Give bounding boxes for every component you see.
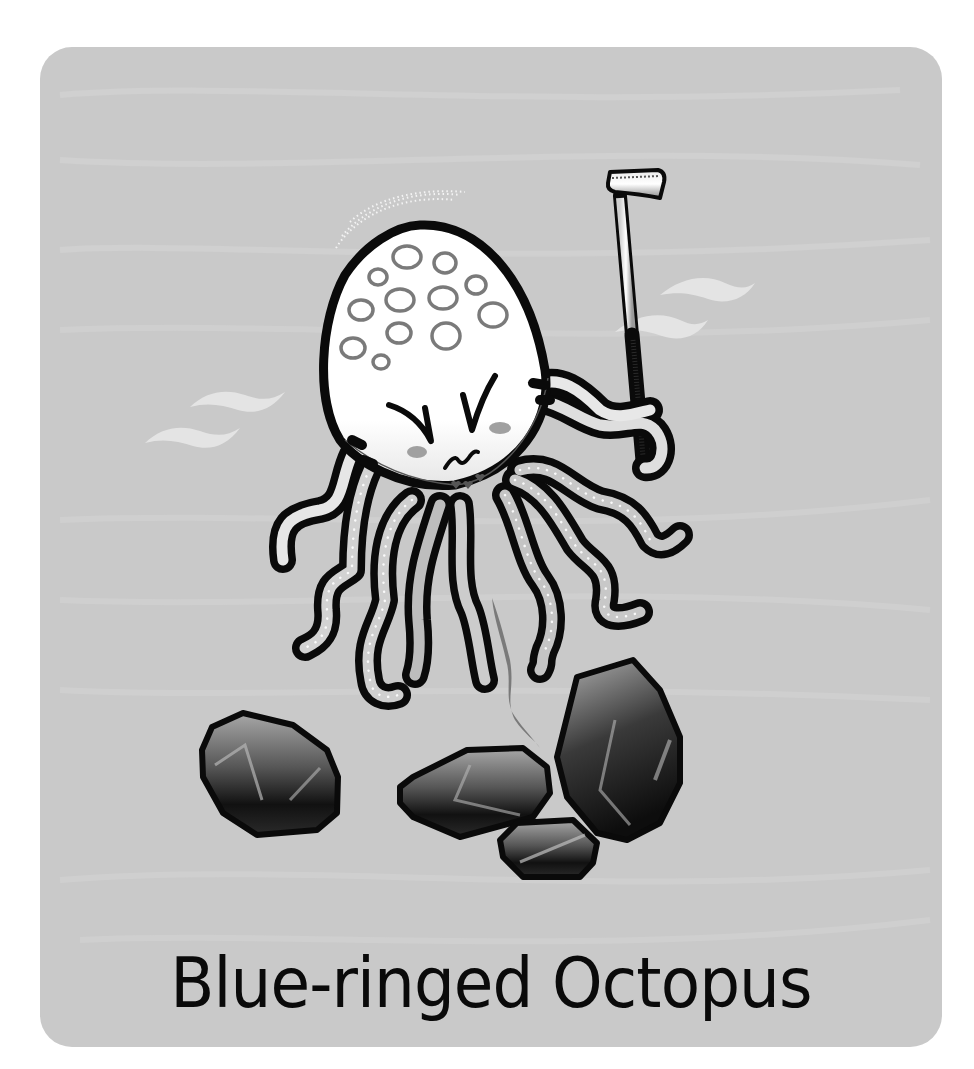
rock-small [500,820,597,877]
species-card: Blue-ringed Octopus [40,47,942,1047]
octopus-illustration [40,47,942,1047]
card-title: Blue-ringed Octopus [76,942,906,1024]
right-cheek [489,422,511,434]
rock-left [202,713,338,835]
rock-tall-right [557,660,680,840]
wave-mark-left [145,392,285,448]
left-cheek [407,446,427,458]
